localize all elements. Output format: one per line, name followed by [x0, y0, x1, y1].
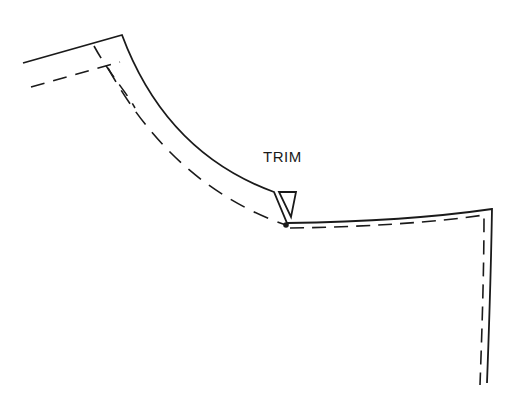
trim-wedge [279, 192, 296, 217]
pattern-diagram: TRIM [0, 0, 522, 403]
pivot-point [283, 222, 289, 228]
trim-label: TRIM [263, 148, 302, 165]
seam-line-corner [94, 46, 135, 108]
seam-line-bottom [290, 215, 484, 385]
cutting-line [23, 35, 492, 383]
